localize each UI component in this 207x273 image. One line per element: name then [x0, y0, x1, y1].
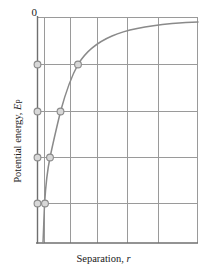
- curve-data-point-markers: [42, 61, 82, 207]
- x-axis-title: Separation, r: [0, 253, 207, 264]
- data-point-marker-curve-1: [75, 61, 82, 68]
- data-point-marker-axis-3: [34, 154, 41, 161]
- x-axis-title-symbol: r: [127, 253, 131, 264]
- y-axis-title-subscript: P: [15, 99, 24, 103]
- data-point-marker-axis-2: [34, 108, 41, 115]
- y-axis-title-symbol: E: [12, 103, 23, 109]
- vertical-gridlines: [45, 17, 198, 243]
- y-axis-title: Potential energy, EP: [12, 61, 24, 221]
- potential-energy-chart: 0 Potential energy, EP Separation, r: [0, 0, 207, 273]
- data-point-marker-curve-2: [57, 108, 64, 115]
- potential-energy-curve: [43, 22, 198, 243]
- x-axis-title-prefix: Separation,: [76, 253, 126, 264]
- data-point-marker-curve-4: [42, 200, 49, 207]
- data-point-marker-axis-1: [34, 61, 41, 68]
- data-point-marker-axis-4: [34, 200, 41, 207]
- y-axis-title-prefix: Potential energy,: [12, 110, 23, 183]
- data-point-marker-curve-3: [47, 154, 54, 161]
- chart-canvas: [0, 0, 207, 273]
- axes: [36, 16, 198, 244]
- y-axis-zero-tick-label: 0: [25, 6, 37, 18]
